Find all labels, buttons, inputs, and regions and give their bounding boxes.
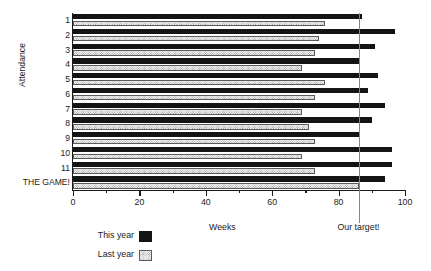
chart-row: 11	[73, 161, 405, 176]
chart-row: 6	[73, 87, 405, 102]
bar-this-year	[73, 132, 359, 137]
bar-this-year	[73, 58, 359, 63]
chart-row: 1	[73, 13, 405, 28]
y-axis-tick-label: 6	[65, 87, 70, 102]
x-axis-tick	[372, 190, 373, 193]
x-axis-tick	[405, 190, 406, 196]
y-axis-tick-label: 5	[65, 72, 70, 87]
legend-label-last-year: Last year	[98, 249, 134, 259]
plot-area: 1234567891011THE GAME!	[73, 13, 405, 190]
x-axis-tick-label: 80	[334, 197, 344, 207]
x-axis-tick-label: 40	[201, 197, 211, 207]
bar-last-year	[73, 36, 319, 41]
y-axis-tick-label: 7	[65, 102, 70, 117]
bar-this-year	[73, 29, 395, 34]
y-axis-tick-label: 9	[65, 131, 70, 146]
bar-last-year	[73, 168, 315, 173]
legend-swatch-last-year	[139, 250, 152, 261]
bar-last-year	[73, 124, 309, 129]
bar-this-year	[73, 14, 362, 19]
y-axis-tick-label: THE GAME!	[23, 175, 70, 190]
bar-this-year	[73, 176, 385, 181]
x-axis-tick	[206, 190, 207, 196]
bar-last-year	[73, 50, 315, 55]
x-axis-tick	[73, 190, 74, 196]
chart-row: 7	[73, 102, 405, 117]
chart-container: Attendance 1234567891011THE GAME! 020406…	[0, 0, 431, 271]
y-axis-tick-label: 11	[61, 161, 70, 176]
x-axis-tick	[272, 190, 273, 196]
chart-row: 3	[73, 43, 405, 58]
bar-this-year	[73, 103, 385, 108]
y-axis-tick-label: 3	[65, 43, 70, 58]
bar-last-year	[73, 139, 315, 144]
x-axis-tick	[173, 190, 174, 193]
x-axis-tick-label: 100	[398, 197, 413, 207]
x-axis-tick-label: 20	[134, 197, 144, 207]
y-axis-tick-label: 8	[65, 116, 70, 131]
chart-row: 10	[73, 146, 405, 161]
y-axis-tick-label: 1	[65, 13, 70, 28]
bar-last-year	[73, 183, 359, 188]
target-line	[359, 13, 360, 223]
bar-this-year	[73, 73, 378, 78]
chart-row: 2	[73, 28, 405, 43]
chart-row: 4	[73, 57, 405, 72]
bar-this-year	[73, 162, 392, 167]
x-axis-tick-label: 0	[71, 197, 76, 207]
bar-last-year	[73, 80, 325, 85]
x-axis-tick	[106, 190, 107, 193]
x-axis-title: Weeks	[209, 222, 236, 232]
chart-row: 9	[73, 131, 405, 146]
legend-swatch-this-year	[139, 231, 152, 242]
chart-row: 5	[73, 72, 405, 87]
x-axis-tick	[139, 190, 140, 196]
target-line-label: Our target!	[337, 222, 379, 232]
legend-label-this-year: This year	[98, 230, 134, 240]
bar-this-year	[73, 117, 372, 122]
y-axis-tick-label: 2	[65, 28, 70, 43]
bar-last-year	[73, 21, 325, 26]
x-axis-tick-label: 60	[267, 197, 277, 207]
x-axis-tick	[339, 190, 340, 196]
bar-last-year	[73, 65, 302, 70]
x-axis-tick	[305, 190, 306, 193]
bar-this-year	[73, 147, 392, 152]
bar-last-year	[73, 95, 315, 100]
y-axis-title: Attendance	[17, 25, 27, 105]
bar-this-year	[73, 44, 375, 49]
bar-last-year	[73, 154, 302, 159]
bar-last-year	[73, 109, 302, 114]
chart-row: 8	[73, 116, 405, 131]
x-axis-tick	[239, 190, 240, 193]
bar-this-year	[73, 88, 368, 93]
chart-row: THE GAME!	[73, 175, 405, 190]
y-axis-tick-label: 4	[65, 57, 70, 72]
y-axis-tick-label: 10	[60, 146, 70, 161]
